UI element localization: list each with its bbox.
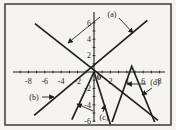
- x-tick-label: -8: [25, 77, 32, 86]
- x-tick-label: -4: [58, 77, 65, 86]
- y-tick-label: 2: [87, 51, 91, 60]
- annotation-label-a: (a): [108, 10, 117, 19]
- y-tick-label: -6: [84, 117, 91, 126]
- annotation-label-b: (b): [29, 93, 39, 102]
- annotation-label-d: (d): [150, 78, 160, 87]
- scanned-figure: -8-6-4-22468246-2-4-60(a)(b)(c)(d): [0, 0, 176, 130]
- y-tick-label: 4: [87, 35, 91, 44]
- coordinate-plane-figure: -8-6-4-22468246-2-4-60(a)(b)(c)(d): [0, 0, 176, 130]
- y-tick-label: -4: [84, 101, 91, 110]
- x-tick-label: -6: [41, 77, 48, 86]
- annotation-label-c: (c): [100, 113, 109, 122]
